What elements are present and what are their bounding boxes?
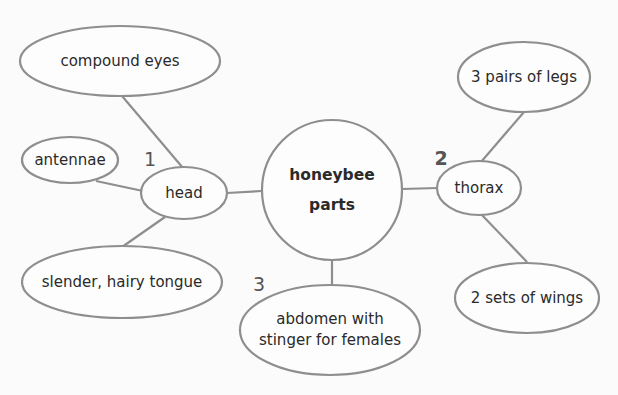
legs-label: 3 pairs of legs bbox=[471, 67, 577, 88]
branch-number-2: 2 bbox=[434, 147, 447, 169]
tongue-label: slender, hairy tongue bbox=[42, 272, 203, 293]
branch-number-1: 1 bbox=[144, 148, 156, 170]
wings-label: 2 sets of wings bbox=[471, 288, 583, 309]
branch-number-3: 3 bbox=[253, 273, 265, 295]
center-label-line1: honeybee bbox=[289, 160, 374, 190]
center-label-line2: parts bbox=[289, 190, 374, 220]
head-label: head bbox=[165, 183, 202, 204]
abdomen-label-line2: stinger for females bbox=[259, 330, 401, 351]
thorax-label: thorax bbox=[455, 178, 504, 199]
center-label: honeybee parts bbox=[289, 160, 374, 220]
abdomen-label-line1: abdomen with bbox=[259, 309, 401, 330]
antennae-label: antennae bbox=[34, 150, 105, 171]
abdomen-label: abdomen with stinger for females bbox=[259, 309, 401, 351]
compound-eyes-label: compound eyes bbox=[60, 51, 179, 72]
